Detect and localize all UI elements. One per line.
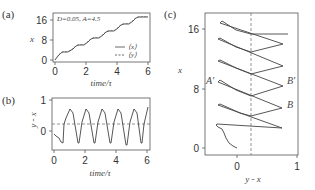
panel-b: (b) 1 0 0 2 4 6 y - x time/τ xyxy=(2,94,150,178)
xtick-2: 2 xyxy=(82,155,88,166)
ytick-0: 0 xyxy=(40,126,46,137)
annotation-B: B xyxy=(287,99,293,110)
panel-c-label: (c) xyxy=(164,8,177,21)
legend-entry-x: ⟨x⟩ xyxy=(128,43,137,51)
panel-c: (c) 16 8 0 0 1 x y - x A' B' B xyxy=(164,8,300,184)
panel-b-frame xyxy=(52,98,150,150)
xtick-6: 6 xyxy=(145,66,151,77)
series-phase-trajectory xyxy=(216,21,288,148)
figure: (a) 16 8 0 0 2 4 6 x time/τ D=0.05, A=4.… xyxy=(0,0,315,190)
xtick-0: 0 xyxy=(234,161,240,172)
panel-a-label: (a) xyxy=(2,8,15,21)
y-axis-label-c: x xyxy=(177,65,182,75)
ytick-0: 0 xyxy=(193,143,199,154)
ytick-8: 8 xyxy=(193,84,199,95)
annotation-A-prime: A' xyxy=(205,75,215,86)
xtick-4: 4 xyxy=(113,155,119,166)
ytick-1: 1 xyxy=(40,95,46,106)
ytick-0: 0 xyxy=(41,55,47,66)
ytick-8: 8 xyxy=(41,35,47,46)
panel-a: (a) 16 8 0 0 2 4 6 x time/τ D=0.05, A=4.… xyxy=(2,8,151,88)
xtick-1: 1 xyxy=(294,161,300,172)
y-axis-label-a: x xyxy=(29,34,34,44)
panel-b-label: (b) xyxy=(2,94,15,107)
xtick-4: 4 xyxy=(114,66,120,77)
y-axis-label-b: y - x xyxy=(28,112,38,129)
x-axis-label-a: time/τ xyxy=(90,78,112,88)
param-annotation: D=0.05, A=4.5 xyxy=(56,15,101,23)
xtick-6: 6 xyxy=(144,155,150,166)
xtick-0: 0 xyxy=(52,66,58,77)
annotation-B-prime: B' xyxy=(287,75,296,86)
xtick-0: 0 xyxy=(51,155,57,166)
x-axis-label-c: y - x xyxy=(244,174,261,184)
ytick-16: 16 xyxy=(36,15,48,26)
series-y-minus-x xyxy=(54,107,148,145)
ytick-16: 16 xyxy=(188,24,200,35)
x-axis-label-b: time/τ xyxy=(89,168,111,178)
legend-a: ⟨x⟩ ⟨y⟩ xyxy=(115,43,137,59)
legend-entry-y: ⟨y⟩ xyxy=(128,51,137,59)
xtick-2: 2 xyxy=(83,66,89,77)
